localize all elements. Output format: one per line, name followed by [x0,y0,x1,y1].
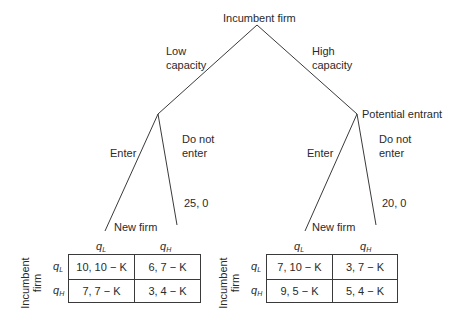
branch-left-do-not-enter [158,114,177,225]
branch-right-do-not-enter [357,114,376,225]
branch-left-enter [105,114,158,231]
right-new-firm-label: New firm [312,221,355,234]
right-col-header-qH: qH [360,240,371,253]
right-col-header-qL: qL [294,240,304,253]
subscript: L [102,246,106,253]
low-capacity-label-1: Low [166,45,186,58]
left-do-not-enter-payoff: 25, 0 [184,197,208,210]
row-player-line-1: Incumbent [19,248,31,318]
potential-entrant-label: Potential entrant [362,108,442,121]
subscript: L [300,246,304,253]
right-row-player-label: Incumbent firm [217,248,241,318]
right-do-not-enter-label-1: Do not [379,133,411,146]
subscript: H [366,246,371,253]
low-capacity-label-2: capacity [166,59,206,72]
right-cell-qL-qL: 7, 10 − K [267,255,332,279]
left-cell-qL-qH: 6, 7 − K [135,255,200,279]
left-payoff-matrix: 10, 10 − K 6, 7 − K 7, 7 − K 3, 4 − K [68,254,201,303]
row-player-line-2: firm [31,248,43,318]
right-row-header-qL: qL [251,260,261,273]
right-do-not-enter-label-2: enter [379,147,404,160]
left-col-header-qL: qL [96,240,106,253]
right-cell-qH-qL: 9, 5 − K [267,279,332,303]
right-cell-qL-qH: 3, 7 − K [333,255,397,279]
right-cell-qH-qH: 5, 4 − K [333,279,397,303]
high-capacity-label-1: High [312,45,335,58]
left-enter-label: Enter [110,147,136,160]
right-do-not-enter-payoff: 20, 0 [382,197,406,210]
right-payoff-matrix: 7, 10 − K 3, 7 − K 9, 5 − K 5, 4 − K [266,254,398,303]
left-cell-qH-qH: 3, 4 − K [135,279,200,303]
subscript: L [257,266,261,273]
root-player-label: Incumbent firm [223,12,296,25]
branch-right-enter [305,114,357,231]
subscript: L [59,266,63,273]
high-capacity-label-2: capacity [312,59,352,72]
left-do-not-enter-label-1: Do not [182,133,214,146]
row-player-line-2: firm [229,248,241,318]
right-row-header-qH: qH [251,284,262,297]
left-do-not-enter-label-2: enter [182,147,207,160]
subscript: H [166,246,171,253]
subscript: H [59,290,64,297]
left-col-header-qH: qH [160,240,171,253]
left-row-header-qL: qL [53,260,63,273]
left-row-player-label: Incumbent firm [19,248,43,318]
left-new-firm-label: New firm [114,221,157,234]
left-cell-qL-qL: 10, 10 − K [69,255,134,279]
left-row-header-qH: qH [53,284,64,297]
subscript: H [257,290,262,297]
right-enter-label: Enter [307,147,333,160]
row-player-line-1: Incumbent [217,248,229,318]
left-cell-qH-qL: 7, 7 − K [69,279,134,303]
